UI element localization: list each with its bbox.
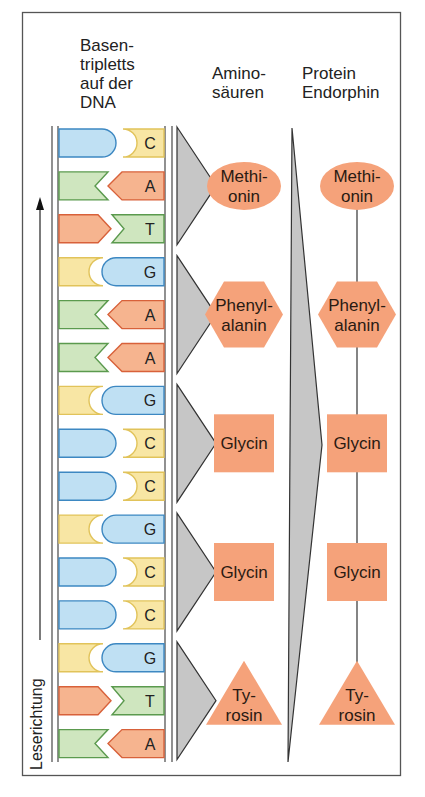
amino-acid: Glycin bbox=[327, 543, 387, 601]
amino-label: Methi- bbox=[220, 167, 267, 186]
complementary-base bbox=[59, 429, 116, 457]
amino-label: Methi- bbox=[333, 167, 380, 186]
base-letter: A bbox=[145, 307, 156, 324]
base-letter: A bbox=[145, 350, 156, 367]
base-pair: C bbox=[59, 558, 164, 586]
amino-label: Glycin bbox=[333, 434, 380, 453]
base-pair: C bbox=[59, 129, 164, 157]
complementary-base bbox=[59, 129, 116, 157]
amino-acid: Methi-onin bbox=[320, 162, 394, 210]
base-letter: G bbox=[144, 392, 156, 409]
base-letter: G bbox=[144, 521, 156, 538]
amino-acid: Methi-onin bbox=[207, 162, 281, 210]
base-pair: C bbox=[59, 472, 164, 500]
base-letter: C bbox=[144, 435, 156, 452]
amino-acid: Glycin bbox=[327, 414, 387, 472]
base-letter: C bbox=[144, 607, 156, 624]
amino-acid: Glycin bbox=[214, 543, 274, 601]
header-base-triplets: Basen- tripletts auf der DNA bbox=[80, 36, 135, 112]
amino-label: Ty- bbox=[345, 686, 369, 705]
base-letter: G bbox=[144, 264, 156, 281]
amino-label: Phenyl- bbox=[215, 296, 273, 315]
amino-label: Phenyl- bbox=[328, 296, 386, 315]
header-protein: Protein Endorphin bbox=[302, 64, 380, 102]
amino-label: Glycin bbox=[220, 563, 267, 582]
reading-direction-label: Leserichtung bbox=[28, 678, 46, 770]
base-pair: G bbox=[59, 386, 164, 414]
base-pair: C bbox=[59, 429, 164, 457]
base-pair: G bbox=[59, 258, 164, 286]
protein-synthesis-diagram: CATGAAGCCGCCGTA Methi-oninPhenyl-alaninG… bbox=[0, 0, 425, 797]
amino-label: Glycin bbox=[333, 563, 380, 582]
header-amino-acids: Amino- säuren bbox=[212, 64, 266, 102]
base-pair: G bbox=[59, 515, 164, 543]
complementary-base bbox=[59, 558, 116, 586]
amino-label: alanin bbox=[334, 316, 379, 335]
amino-label: onin bbox=[341, 187, 373, 206]
base-letter: C bbox=[144, 135, 156, 152]
amino-label: rosin bbox=[339, 706, 376, 725]
amino-acid: Glycin bbox=[214, 414, 274, 472]
base-letter: A bbox=[145, 736, 156, 753]
amino-label: Glycin bbox=[220, 434, 267, 453]
base-letter: T bbox=[145, 221, 155, 238]
base-letter: G bbox=[144, 650, 156, 667]
base-pair: C bbox=[59, 601, 164, 629]
amino-label: rosin bbox=[226, 706, 263, 725]
diagram-canvas: CATGAAGCCGCCGTA Methi-oninPhenyl-alaninG… bbox=[0, 0, 425, 797]
base-pair: G bbox=[59, 644, 164, 672]
amino-label: Ty- bbox=[232, 686, 256, 705]
base-letter: C bbox=[144, 478, 156, 495]
base-letter: T bbox=[145, 693, 155, 710]
complementary-base bbox=[59, 601, 116, 629]
base-letter: A bbox=[145, 178, 156, 195]
base-letter: C bbox=[144, 564, 156, 581]
complementary-base bbox=[59, 472, 116, 500]
amino-label: onin bbox=[228, 187, 260, 206]
amino-label: alanin bbox=[221, 316, 266, 335]
